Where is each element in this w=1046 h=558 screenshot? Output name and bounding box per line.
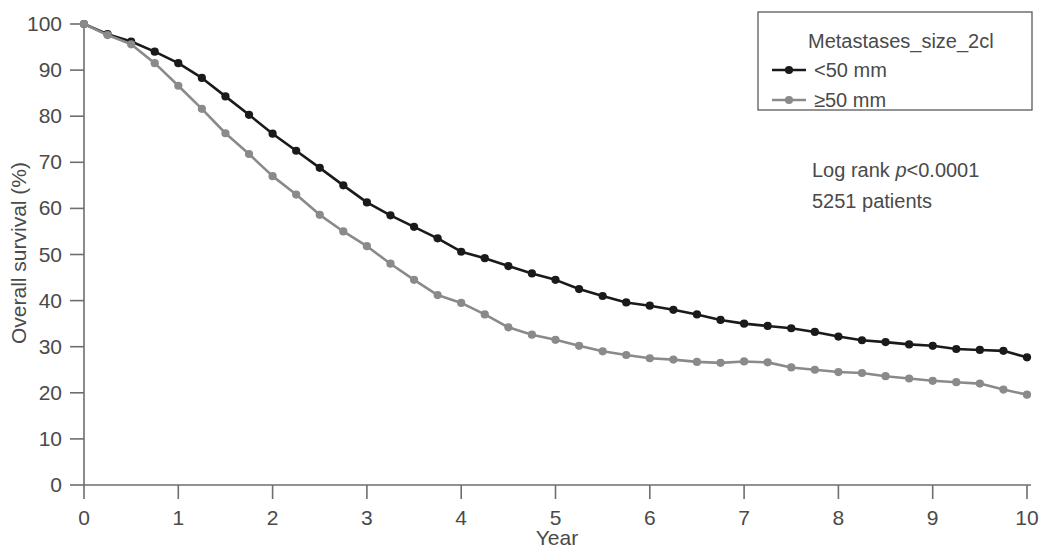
annotation-prefix: 5251 patients xyxy=(812,190,932,212)
data-point xyxy=(881,338,889,346)
legend-entry-label: <50 mm xyxy=(814,59,887,81)
data-point xyxy=(410,276,418,284)
data-point xyxy=(929,342,937,350)
legend-swatch-marker xyxy=(785,96,793,104)
data-point xyxy=(858,336,866,344)
data-point xyxy=(198,74,206,82)
data-point xyxy=(905,374,913,382)
annotation-line-1: Log rank p<0.0001 xyxy=(812,159,979,181)
annotation-suffix: <0.0001 xyxy=(907,159,980,181)
data-point xyxy=(292,190,300,198)
data-point xyxy=(221,92,229,100)
data-point xyxy=(127,40,135,48)
data-point xyxy=(999,347,1007,355)
y-axis: 0102030405060708090100 Overall survival … xyxy=(7,12,84,496)
data-point xyxy=(575,285,583,293)
data-point xyxy=(952,378,960,386)
annotation-group: Log rank p<0.00015251 patients xyxy=(812,159,979,212)
data-point xyxy=(716,359,724,367)
x-tick-label: 8 xyxy=(833,506,845,529)
data-point xyxy=(339,227,347,235)
data-point xyxy=(504,323,512,331)
y-tick-label: 60 xyxy=(39,196,62,219)
y-tick-label: 50 xyxy=(39,243,62,266)
data-point xyxy=(504,262,512,270)
data-point xyxy=(269,130,277,138)
data-point xyxy=(151,59,159,67)
y-axis-title: Overall survival (%) xyxy=(7,162,30,344)
data-point xyxy=(457,299,465,307)
legend-title: Metastases_size_2cl xyxy=(808,30,994,53)
data-point xyxy=(481,310,489,318)
y-tick-group: 0102030405060708090100 xyxy=(27,12,84,496)
y-tick-label: 40 xyxy=(39,289,62,312)
data-point xyxy=(575,342,583,350)
data-point xyxy=(693,310,701,318)
data-point xyxy=(646,354,654,362)
x-tick-label: 1 xyxy=(172,506,184,529)
data-point xyxy=(245,150,253,158)
data-point xyxy=(80,20,88,28)
data-point xyxy=(669,356,677,364)
data-point xyxy=(881,372,889,380)
data-point xyxy=(905,340,913,348)
y-tick-label: 80 xyxy=(39,104,62,127)
data-point xyxy=(929,377,937,385)
y-tick-label: 10 xyxy=(39,427,62,450)
data-point xyxy=(151,48,159,56)
data-point xyxy=(457,248,465,256)
data-point xyxy=(669,306,677,314)
data-point xyxy=(103,31,111,39)
data-point xyxy=(528,269,536,277)
data-point xyxy=(716,316,724,324)
data-point xyxy=(952,345,960,353)
data-point xyxy=(386,211,394,219)
data-point xyxy=(693,358,701,366)
y-tick-label: 70 xyxy=(39,150,62,173)
data-point xyxy=(622,351,630,359)
data-point xyxy=(811,328,819,336)
annotation-emphasis: p xyxy=(894,159,906,181)
data-point xyxy=(1023,353,1031,361)
data-point xyxy=(976,346,984,354)
data-point xyxy=(386,260,394,268)
data-point xyxy=(221,129,229,137)
data-point xyxy=(434,291,442,299)
data-point xyxy=(858,369,866,377)
x-tick-label: 6 xyxy=(644,506,656,529)
data-point xyxy=(245,111,253,119)
data-point xyxy=(787,363,795,371)
y-tick-label: 90 xyxy=(39,58,62,81)
data-point xyxy=(339,181,347,189)
data-point xyxy=(646,302,654,310)
data-point xyxy=(740,320,748,328)
y-tick-label: 30 xyxy=(39,335,62,358)
annotation-line-2: 5251 patients xyxy=(812,190,932,212)
y-tick-label: 20 xyxy=(39,381,62,404)
data-point xyxy=(363,242,371,250)
data-point xyxy=(834,368,842,376)
legend-box xyxy=(758,12,1032,110)
data-point xyxy=(292,147,300,155)
x-tick-label: 4 xyxy=(455,506,467,529)
legend-entry-label: ≥50 mm xyxy=(814,89,886,111)
data-point xyxy=(174,82,182,90)
data-point xyxy=(999,385,1007,393)
data-point xyxy=(316,164,324,172)
chart-svg: 0102030405060708090100 Overall survival … xyxy=(0,0,1046,558)
x-axis-title: Year xyxy=(536,526,578,549)
x-axis: 012345678910 Year xyxy=(78,485,1039,549)
x-tick-group: 012345678910 xyxy=(78,485,1039,529)
data-point xyxy=(599,292,607,300)
data-point xyxy=(787,324,795,332)
survival-chart: 0102030405060708090100 Overall survival … xyxy=(0,0,1046,558)
data-point xyxy=(316,211,324,219)
data-point xyxy=(976,379,984,387)
x-tick-label: 10 xyxy=(1015,506,1038,529)
x-tick-label: 7 xyxy=(738,506,750,529)
legend-swatch-marker xyxy=(785,66,793,74)
data-point xyxy=(269,172,277,180)
data-point xyxy=(764,358,772,366)
legend: Metastases_size_2cl <50 mm≥50 mm xyxy=(758,12,1032,111)
data-point xyxy=(410,223,418,231)
